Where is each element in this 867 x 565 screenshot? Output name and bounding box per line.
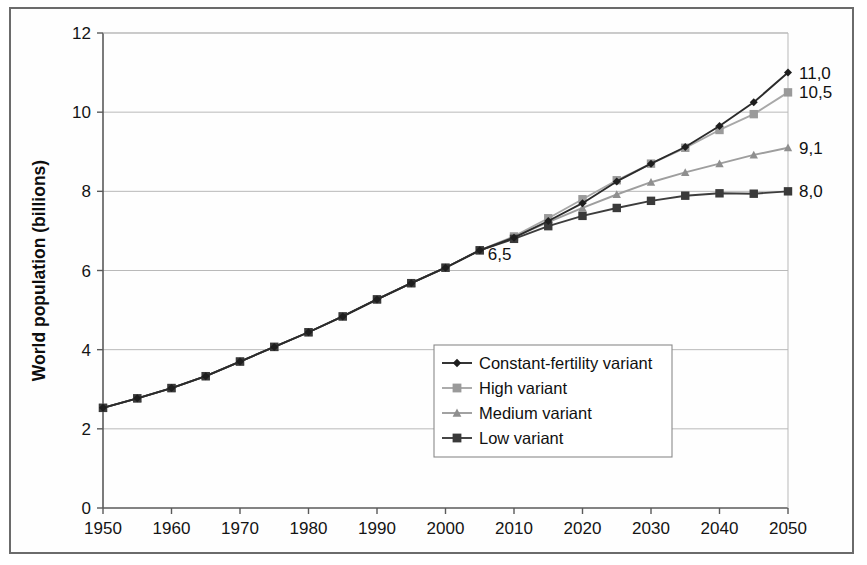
data-point (784, 187, 792, 195)
data-point (647, 197, 655, 205)
x-tick-label-2000: 2000 (427, 519, 465, 538)
data-point (750, 110, 758, 118)
data-point (613, 204, 621, 212)
end-label-8-0: 8,0 (799, 182, 823, 201)
x-tick-label-2050: 2050 (769, 519, 807, 538)
end-label-9-1: 9,1 (799, 139, 823, 158)
y-tick-label-8: 8 (82, 182, 91, 201)
y-tick-label-4: 4 (82, 341, 91, 360)
y-axis-title: World population (billions) (29, 160, 49, 381)
legend-marker (453, 434, 462, 443)
chart-figure: 0246810121950196019701980199020002010202… (0, 0, 867, 565)
legend-label: High variant (479, 379, 567, 397)
legend-label: Constant-fertility variant (479, 354, 653, 372)
legend-label: Low variant (479, 429, 564, 447)
y-tick-label-6: 6 (82, 262, 91, 281)
y-tick-label-10: 10 (72, 103, 91, 122)
end-label-11-0: 11,0 (799, 64, 831, 83)
x-tick-label-1950: 1950 (84, 519, 122, 538)
annotation-6-5: 6,5 (488, 245, 512, 264)
legend-label: Medium variant (479, 404, 592, 422)
y-tick-label-0: 0 (82, 499, 91, 518)
data-point (784, 88, 792, 96)
data-point (578, 212, 586, 220)
x-tick-label-2030: 2030 (632, 519, 670, 538)
chart-legend: Constant-fertility variantHigh variantMe… (434, 345, 672, 457)
x-tick-label-1970: 1970 (221, 519, 259, 538)
x-tick-label-2040: 2040 (701, 519, 739, 538)
end-label-10-5: 10,5 (799, 83, 832, 102)
x-tick-label-1960: 1960 (153, 519, 191, 538)
axis-tick-labels: 0246810121950196019701980199020002010202… (72, 24, 807, 538)
y-tick-label-2: 2 (82, 420, 91, 439)
x-tick-label-1990: 1990 (358, 519, 396, 538)
data-point (750, 190, 758, 198)
population-projection-chart: 0246810121950196019701980199020002010202… (0, 0, 867, 565)
legend-marker (453, 384, 462, 393)
x-tick-label-1980: 1980 (290, 519, 328, 538)
x-tick-label-2020: 2020 (564, 519, 602, 538)
data-point (681, 191, 689, 199)
data-annotations: 11,010,59,18,06,5 (488, 64, 832, 265)
y-tick-label-12: 12 (72, 24, 91, 43)
x-tick-label-2010: 2010 (495, 519, 533, 538)
data-point (715, 189, 723, 197)
